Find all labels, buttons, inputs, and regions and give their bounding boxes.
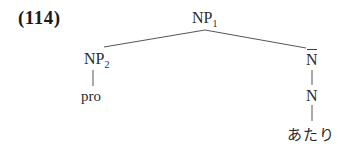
node-np2: NP2 xyxy=(84,50,109,70)
node-n: N xyxy=(306,87,318,105)
node-np1: NP1 xyxy=(192,9,217,29)
node-np1-subscript: 1 xyxy=(212,18,217,29)
leaf-pro: pro xyxy=(81,87,101,105)
node-np2-subscript: 2 xyxy=(104,59,109,70)
example-number: (114) xyxy=(18,7,61,29)
node-n-bar: N xyxy=(306,51,318,69)
leaf-atari: あたり xyxy=(287,123,335,144)
node-np2-label: NP xyxy=(84,50,104,67)
node-n-bar-label: N xyxy=(306,51,318,69)
edge-np1-np2 xyxy=(104,30,205,47)
node-np1-label: NP xyxy=(192,9,212,26)
edge-np1-nbar xyxy=(205,30,306,48)
